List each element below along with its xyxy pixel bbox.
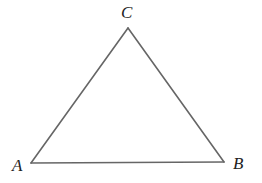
vertex-label-c: C — [121, 4, 132, 21]
vertex-label-b: B — [233, 155, 243, 172]
vertex-label-a: A — [12, 157, 22, 174]
edge-ab — [31, 162, 224, 163]
edge-bc — [128, 28, 224, 162]
diagram-canvas: C A B — [0, 0, 262, 183]
triangle-figure — [0, 0, 262, 183]
edge-ca — [31, 28, 128, 163]
